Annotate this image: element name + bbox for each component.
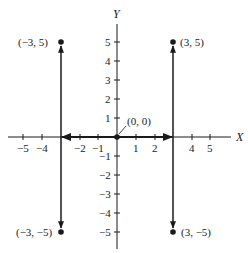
x-tick-label: −5 [17, 142, 29, 154]
y-tick-label: −2 [99, 169, 111, 181]
x-tick-label: 4 [189, 142, 195, 154]
coordinate-plane-svg: X Y −5 −4 −2 −1 1 2 4 5 [0, 0, 248, 253]
point-neg3-neg5 [58, 229, 64, 235]
y-tick-label: −1 [99, 150, 111, 162]
y-tick-label: 1 [105, 112, 111, 124]
x-tick-labels: −5 −4 −2 −1 1 2 4 5 [17, 142, 213, 154]
point-label-origin: (0, 0) [127, 115, 151, 128]
x-tick-label: 2 [152, 142, 158, 154]
y-tick-label: −3 [99, 188, 111, 200]
x-tick-label: −2 [74, 142, 86, 154]
y-axis-label: Y [113, 7, 121, 21]
y-tick-label: 2 [105, 93, 111, 105]
y-tick-label: 5 [105, 36, 111, 48]
point-origin [114, 134, 120, 140]
point-3-neg5 [170, 229, 176, 235]
point-label-neg3-neg5: (−3, −5) [16, 226, 53, 239]
y-tick-label: 4 [105, 55, 111, 67]
y-tick-label: −4 [99, 207, 111, 219]
origin-label-pointer [119, 126, 126, 134]
x-tick-label: −4 [36, 142, 48, 154]
point-3-5 [170, 39, 176, 45]
x-tick-label: 1 [133, 142, 139, 154]
x-axis-label: X [235, 130, 244, 144]
x-tick-label: 5 [207, 142, 213, 154]
point-neg3-5 [58, 39, 64, 45]
y-tick-label: 3 [105, 74, 111, 86]
point-label-3-neg5: (3, −5) [181, 226, 211, 239]
point-label-3-5: (3, 5) [180, 36, 204, 49]
y-tick-label: −5 [99, 226, 111, 238]
coordinate-plane-figure: X Y −5 −4 −2 −1 1 2 4 5 [0, 0, 248, 253]
point-label-neg3-5: (−3, 5) [18, 36, 48, 49]
